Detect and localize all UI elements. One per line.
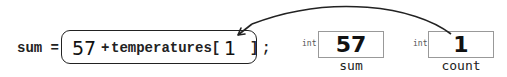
curved-arrow-icon (0, 0, 507, 77)
